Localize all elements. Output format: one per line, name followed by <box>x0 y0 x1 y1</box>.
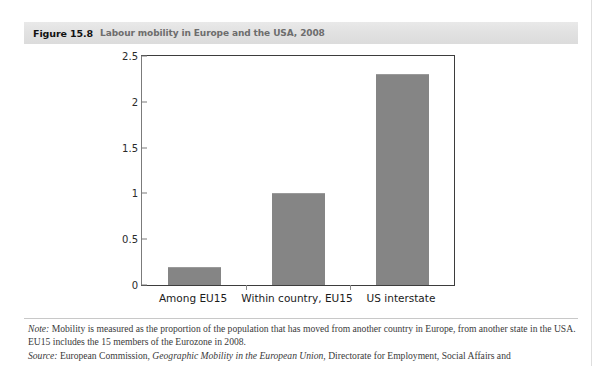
figure-notes: Note: Mobility is measured as the propor… <box>28 323 576 363</box>
y-tick-label: 0.5 <box>122 234 138 245</box>
y-tick-label: 1.5 <box>122 142 138 153</box>
source-post: , Directorate for Employment, Social Aff… <box>323 350 510 361</box>
chart-region: 00.511.522.5 Among EU15Within country, E… <box>24 44 578 316</box>
y-tick-label: 1 <box>132 188 138 199</box>
x-axis-label: Within country, EU15 <box>241 292 352 304</box>
page: Figure 15.8 Labour mobility in Europe an… <box>0 0 601 366</box>
x-tick-mark <box>350 285 351 290</box>
note-paragraph: Note: Mobility is measured as the propor… <box>28 323 576 348</box>
y-tick-mark <box>142 56 147 57</box>
y-tick-mark <box>142 101 147 102</box>
y-tick-label: 2 <box>132 96 138 107</box>
x-axis-label: Among EU15 <box>159 292 227 304</box>
source-title: Geographic Mobility in the European Unio… <box>152 350 323 361</box>
y-tick-label: 2.5 <box>122 51 138 62</box>
x-axis-label: US interstate <box>367 292 436 304</box>
y-tick-mark <box>142 239 147 240</box>
page-edge-rule <box>591 0 592 366</box>
bar <box>168 267 221 285</box>
figure-number: Figure 15.8 <box>33 28 93 39</box>
note-text: Mobility is measured as the proportion o… <box>28 323 576 347</box>
y-tick-label: 0 <box>132 280 138 291</box>
figure-divider <box>24 318 578 319</box>
plot-area: 00.511.522.5 <box>141 55 455 286</box>
x-tick-mark <box>246 285 247 290</box>
figure-container: Figure 15.8 Labour mobility in Europe an… <box>24 22 578 360</box>
bar <box>376 74 429 285</box>
y-tick-mark <box>142 285 147 286</box>
note-label: Note: <box>28 323 49 334</box>
source-pre: European Commission, <box>57 350 152 361</box>
y-tick-mark <box>142 193 147 194</box>
figure-caption: Labour mobility in Europe and the USA, 2… <box>100 28 325 38</box>
bar <box>272 193 325 285</box>
source-paragraph: Source: European Commission, Geographic … <box>28 350 576 363</box>
y-tick-mark <box>142 147 147 148</box>
source-label: Source: <box>28 350 57 361</box>
figure-header-band: Figure 15.8 Labour mobility in Europe an… <box>24 22 578 44</box>
